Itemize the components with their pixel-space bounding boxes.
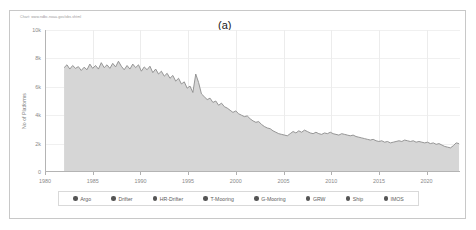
legend-label: HR-Drifter (160, 196, 183, 202)
y-axis-tick-label: 6k (35, 84, 41, 90)
x-axis-tick-label: 1980 (39, 178, 51, 184)
legend-item[interactable]: Ship (346, 196, 363, 202)
legend-item[interactable]: G-Mooring (254, 196, 286, 202)
x-axis-tick-label: 2010 (325, 178, 337, 184)
x-axis-tick-mark (236, 172, 237, 175)
x-axis-tick-mark (379, 172, 380, 175)
legend-marker-icon (254, 196, 259, 201)
legend-marker-icon (203, 196, 208, 201)
x-axis-tick-mark (140, 172, 141, 175)
legend-label: Ship (353, 196, 363, 202)
x-axis-tick-mark (427, 172, 428, 175)
legend-marker-icon (73, 196, 78, 201)
x-axis-tick-mark (188, 172, 189, 175)
legend-item[interactable]: GRW (306, 196, 326, 202)
legend-label: Drifter (118, 196, 132, 202)
series-area-fill (64, 61, 459, 172)
x-axis-tick-mark (45, 172, 46, 175)
source-attribution: Chart: www.ndbc.noaa.gov/obs.shtml (20, 15, 81, 19)
legend-item[interactable]: HR-Drifter (153, 196, 183, 202)
y-axis-tick-label: 10k (32, 27, 41, 33)
x-axis-tick-mark (93, 172, 94, 175)
legend-item[interactable]: Argo (73, 196, 91, 202)
data-series-area (45, 30, 460, 172)
legend-label: GRW (313, 196, 326, 202)
y-axis-tick-label: 4k (35, 112, 41, 118)
y-axis-title: No of Platforms (21, 76, 27, 146)
legend-label: G-Mooring (261, 196, 286, 202)
x-axis-tick-label: 1995 (182, 178, 194, 184)
legend-marker-icon (346, 196, 351, 201)
x-axis-tick-label: 1985 (87, 178, 99, 184)
y-axis-tick-label: 8k (35, 55, 41, 61)
legend-marker-icon (306, 196, 311, 201)
legend-marker-icon (153, 196, 158, 201)
legend-label: T-Mooring (210, 196, 233, 202)
x-axis-tick-label: 2020 (421, 178, 433, 184)
y-axis-tick-label: 2k (35, 141, 41, 147)
legend-label: IMOS (391, 196, 404, 202)
x-axis-tick-label: 2005 (278, 178, 290, 184)
legend-marker-icon (384, 196, 389, 201)
x-axis-tick-label: 1990 (134, 178, 146, 184)
y-axis-tick-label: 0 (38, 169, 41, 175)
legend-item[interactable]: T-Mooring (203, 196, 233, 202)
x-axis-tick-label: 2015 (373, 178, 385, 184)
legend-marker-icon (111, 196, 116, 201)
chart-legend: ArgoDrifterHR-DrifterT-MooringG-MooringG… (58, 191, 419, 206)
legend-item[interactable]: IMOS (384, 196, 404, 202)
legend-item[interactable]: Drifter (111, 196, 132, 202)
x-axis-tick-label: 2000 (230, 178, 242, 184)
x-axis-tick-mark (331, 172, 332, 175)
y-axis-line (45, 30, 46, 172)
x-axis-tick-mark (284, 172, 285, 175)
figure-panel: Chart: www.ndbc.noaa.gov/obs.shtml (a) N… (0, 0, 476, 230)
legend-label: Argo (80, 196, 91, 202)
plot-area: 02k4k6k8k10k 198019851990199520002005201… (45, 30, 460, 172)
x-axis-line (45, 171, 460, 172)
